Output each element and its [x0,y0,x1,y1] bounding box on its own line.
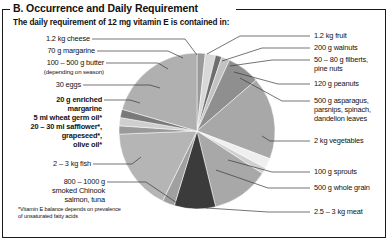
label-safflower-oil: 20 – 30 ml safflower*, [0,122,102,131]
label-filberts-line2: pine nuts [314,64,343,73]
label-enriched-margarine-line1: 20 g enriched [0,95,102,104]
label-asparagus-line1: 500 g asparagus, [314,96,369,105]
label-walnuts: 200 g walnuts [314,43,358,52]
label-butter-note: (depending on season) [0,68,104,76]
leader-line-walnuts [222,48,310,61]
label-eggs: 30 eggs [0,80,81,89]
label-peanuts: 120 g peanuts [314,79,359,88]
label-fish: 2 – 3 kg fish [0,159,91,168]
label-margarine: 70 g margarine [0,46,95,55]
label-enriched-margarine-line2: margarine [0,104,102,113]
pie-slice-group [119,53,275,209]
label-meat: 2.5 – 3 kg meat [314,207,363,216]
label-salmon-line1: 800 – 1000 g [0,177,105,186]
label-salmon-line2: smoked Chinook [0,186,105,195]
label-asparagus-line3: dandelion leaves [314,114,367,123]
label-asparagus-line2: parsnips, spinach, [314,105,371,114]
label-vegetables: 2 kg vegetables [314,136,364,145]
leader-line-meat [206,208,310,212]
label-fruit: 1.2 kg fruit [314,31,347,40]
label-cheese: 1.2 kg cheese [0,34,90,43]
label-wheat-germ-oil: 5 ml wheat germ oil* [0,113,102,122]
figure-panel: B. Occurrence and Daily Requirement The … [0,0,388,241]
leader-line-filberts [230,60,310,66]
leader-line-cheese [92,39,197,55]
footnote-line-1: *Vitamin E balance depends on prevalence [18,206,121,213]
label-sprouts: 100 g sprouts [314,167,357,176]
label-filberts-line1: 50 – 80 g filberts, [314,55,368,64]
label-salmon-line3: salmon, tuna [0,195,105,204]
label-butter: 100 – 500 g butter [0,58,104,67]
label-grapeseed-oil: grapeseed*, [0,131,102,140]
footnote-line-2: of unsaturated fatty acids [18,213,121,220]
leader-line-fruit [207,36,310,54]
label-olive-oil: olive oil* [0,140,102,149]
footnote: *Vitamin E balance depends on prevalence… [18,206,121,220]
label-wholegrain: 500 g whole grain [314,183,370,192]
leader-line-margarine [97,51,183,58]
